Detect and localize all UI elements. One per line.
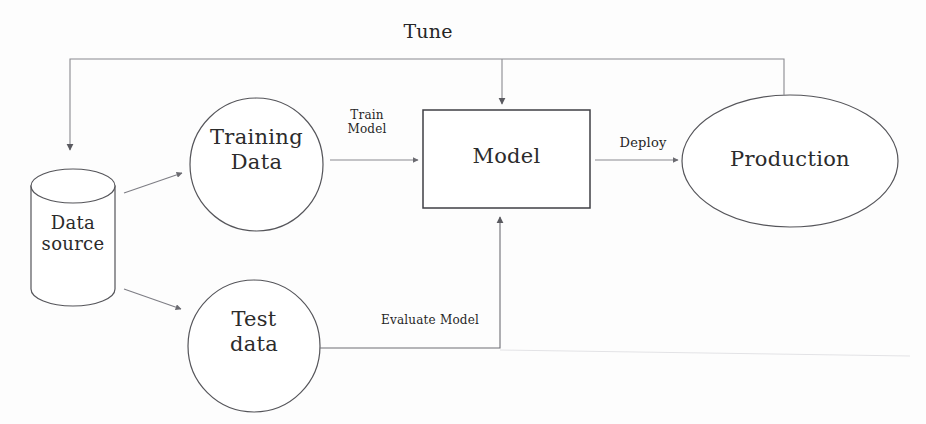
edge-evaluate-model <box>320 217 500 348</box>
node-production[interactable] <box>682 95 898 227</box>
diagram-canvas: Data source Training Data Test data Mode… <box>0 0 926 424</box>
edge-label-tune: Tune <box>378 20 478 43</box>
edge-label-train-model: Train Model <box>330 108 404 137</box>
node-test-data[interactable] <box>188 280 320 412</box>
edge-label-deploy: Deploy <box>608 135 678 151</box>
edge-label-evaluate-model: Evaluate Model <box>365 313 495 327</box>
node-model[interactable] <box>423 110 590 208</box>
diagram-shapes-layer <box>0 0 926 424</box>
node-training-data[interactable] <box>190 98 323 231</box>
edge-split-training <box>124 173 182 193</box>
edge-split-test <box>124 289 181 309</box>
node-data-source[interactable] <box>31 169 115 306</box>
scan-artifact-line <box>500 350 910 356</box>
